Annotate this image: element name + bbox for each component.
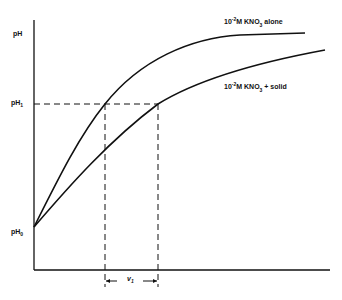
- s1-pre: 10: [224, 18, 232, 25]
- curve-kno3-solid: [34, 50, 325, 227]
- curve-kno3-alone: [34, 33, 305, 227]
- ph-titration-chart: [0, 0, 342, 300]
- s1-tail: alone: [262, 18, 282, 25]
- ph0-tick-label: pH0: [11, 228, 23, 237]
- ph1-base: pH: [11, 99, 20, 106]
- series-label-kno3-alone: 10-2M KNO3 alone: [224, 16, 283, 28]
- series-label-kno3-solid: 10-2M KNO3 + solid: [224, 81, 287, 93]
- y-axis-label: pH: [13, 30, 22, 37]
- v1-right-arrowhead-icon: [153, 279, 157, 283]
- v1-left-arrowhead-icon: [106, 279, 110, 283]
- ph0-base: pH: [11, 228, 20, 235]
- s2-pre: 10: [224, 83, 232, 90]
- ph1-tick-label: pH1: [11, 99, 23, 108]
- ph0-sub: 0: [20, 231, 23, 237]
- s2-post: M KNO: [236, 83, 259, 90]
- v1-label: v1: [127, 275, 134, 284]
- ph1-sub: 1: [20, 102, 23, 108]
- v1-sub: 1: [131, 278, 134, 284]
- s2-tail: + solid: [262, 83, 286, 90]
- y-axis-label-text: pH: [13, 30, 22, 37]
- s1-post: M KNO: [236, 18, 259, 25]
